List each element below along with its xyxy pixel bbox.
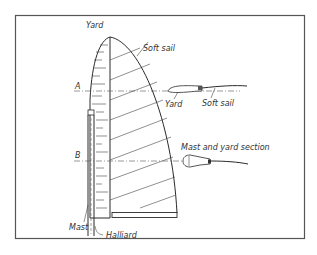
label-section-a: A [74, 82, 80, 91]
halliard-leader [95, 226, 103, 235]
sail-battens [110, 48, 176, 208]
mast-yard-section-b [183, 155, 248, 167]
label-mast: Mast [69, 223, 89, 232]
sail-diagram: Yard Soft sail A B Yard Soft sail Mast a… [0, 0, 317, 255]
sail-leech [110, 37, 177, 213]
yard-section-a [168, 86, 247, 99]
label-yard-section: Yard [165, 100, 183, 109]
label-soft-sail-top: Soft sail [143, 44, 176, 53]
label-halliard: Halliard [106, 231, 138, 240]
label-soft-sail-section: Soft sail [202, 99, 235, 108]
label-section-b: B [75, 151, 81, 160]
label-yard-top: Yard [86, 21, 104, 30]
mast-leader [84, 205, 88, 222]
mast [88, 110, 94, 236]
boom [112, 213, 177, 218]
label-mast-yard-section: Mast and yard section [181, 143, 270, 152]
yard-shape [90, 37, 110, 218]
